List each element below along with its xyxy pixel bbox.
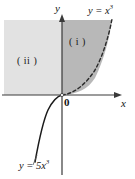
curve-label-cubic-text: y = x — [88, 5, 110, 16]
curve-label-cubic: y = x3 — [88, 4, 113, 16]
curve-label-five-cubic: y = 5x3 — [19, 159, 49, 171]
curve-label-five-cubic-exponent: 3 — [46, 158, 49, 165]
figure-cubic-regions: y = x3 y = 5x3 ( i ) ( ii ) 0 x y — [0, 0, 135, 179]
region-one-fill — [62, 20, 112, 95]
plot-canvas — [0, 0, 135, 179]
y-axis-arrowhead — [59, 14, 65, 22]
region-two-label: ( ii ) — [17, 56, 37, 66]
curve-label-cubic-exponent: 3 — [110, 3, 113, 10]
curve-label-five-cubic-text: y = 5x — [19, 160, 46, 171]
region-one-label: ( i ) — [69, 37, 86, 47]
origin-label: 0 — [64, 97, 70, 108]
curve-five-cubic-solid — [35, 95, 62, 162]
x-axis-label: x — [121, 98, 126, 109]
y-axis-label: y — [55, 3, 60, 14]
